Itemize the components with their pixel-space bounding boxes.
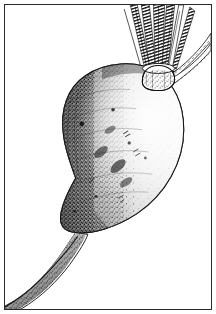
crown [142, 63, 174, 90]
turnip-engraving [5, 5, 211, 309]
plate-frame [4, 4, 212, 310]
illustration-plate: Turnip turnip root with cut leaf stalks … [0, 0, 216, 314]
